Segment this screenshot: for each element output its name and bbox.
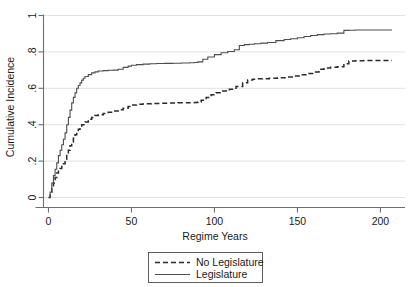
chart-background xyxy=(0,0,412,287)
y-tick-label-1: .2 xyxy=(26,157,38,166)
x-axis-title: Regime Years xyxy=(182,230,247,242)
y-tick-label-3: .6 xyxy=(26,84,38,93)
y-tick-label-4: .8 xyxy=(26,47,38,56)
x-tick-label-1: 50 xyxy=(126,215,138,227)
x-tick-label-3: 150 xyxy=(289,215,307,227)
chart-legend: No Legislature Legislature xyxy=(149,253,264,283)
y-axis-title: Cumulative Incidence xyxy=(4,57,16,158)
chart-figure: 050100150200 0.2.4.6.81 Regime Years Cum… xyxy=(0,0,412,287)
x-tick-label-2: 100 xyxy=(206,215,224,227)
legend-label-legislature: Legislature xyxy=(196,268,248,280)
cumulative-incidence-chart: 050100150200 0.2.4.6.81 Regime Years Cum… xyxy=(0,0,412,287)
y-tick-label-5: 1 xyxy=(26,12,38,18)
x-tick-label-0: 0 xyxy=(46,215,52,227)
x-tick-label-4: 200 xyxy=(372,215,390,227)
legend-label-no-legislature: No Legislature xyxy=(196,256,264,268)
y-tick-label-0: 0 xyxy=(26,194,38,200)
y-tick-label-2: .4 xyxy=(26,120,38,129)
